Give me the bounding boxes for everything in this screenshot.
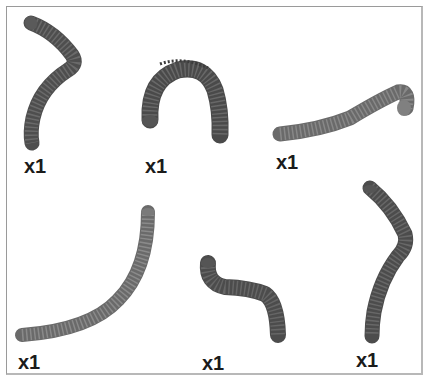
hose-part-6 xyxy=(0,0,430,382)
quantity-label-6: x1 xyxy=(356,350,378,370)
hose-6-icon xyxy=(0,0,430,382)
